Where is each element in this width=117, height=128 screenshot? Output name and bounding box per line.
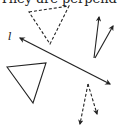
line-l-double-arrow [20, 38, 110, 84]
dashed-arrow-down-right [88, 84, 97, 114]
solid-triangle [7, 63, 46, 103]
geometry-diagram [0, 0, 117, 128]
dashed-triangle [29, 6, 69, 44]
dashed-arrow-down-left [80, 84, 88, 124]
